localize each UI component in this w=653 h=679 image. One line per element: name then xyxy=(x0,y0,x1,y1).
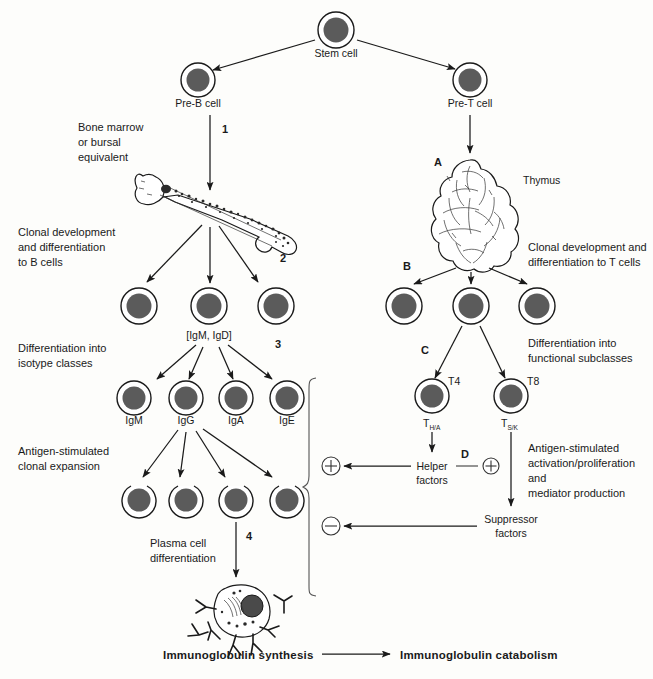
lymphocyte-development-diagram: Stem cell Pre-B cell Pre-T cell Bone mar… xyxy=(0,0,653,679)
clonal-b-line-3: to B cells xyxy=(18,256,63,268)
diagram-canvas: Stem cell Pre-B cell Pre-T cell Bone mar… xyxy=(0,0,653,679)
t-cell-left-nucleus xyxy=(392,294,417,319)
t-cell-right-nucleus xyxy=(525,294,550,319)
stem-cell-label: Stem cell xyxy=(314,47,357,59)
b-cell-right-nucleus xyxy=(264,294,289,319)
expanded-clone-3 xyxy=(219,486,253,518)
expanded-clone-2 xyxy=(169,486,203,518)
clone-4-nucleus xyxy=(276,489,299,512)
clonal-expansion-line-1: Antigen-stimulated xyxy=(18,445,109,457)
antigen-t-line-4: mediator production xyxy=(528,487,625,499)
marker-4: 4 xyxy=(246,530,253,542)
clone-1-nucleus xyxy=(128,489,151,512)
t8-cell-label: T8 xyxy=(527,375,539,387)
isotype-line-1: Differentiation into xyxy=(18,342,106,354)
clonal-expansion-line-2: clonal expansion xyxy=(18,460,100,472)
pre-t-cell-nucleus xyxy=(459,69,482,92)
functional-subclasses-line-2: functional subclasses xyxy=(528,352,633,364)
isotype-line-2: isotype classes xyxy=(18,357,93,369)
marker-d: D xyxy=(461,448,469,460)
thymus-label: Thymus xyxy=(523,174,560,186)
functional-subclasses-line-1: Differentiation into xyxy=(528,337,616,349)
t8-cell-nucleus xyxy=(500,385,523,408)
clone-2-nucleus xyxy=(175,489,198,512)
marker-c: C xyxy=(421,344,429,356)
bone-marrow-line-1: Bone marrow xyxy=(78,121,143,133)
expanded-clone-1 xyxy=(122,486,156,518)
b-cell-clone-center xyxy=(191,288,227,324)
b-cell-clone-right xyxy=(258,288,294,324)
marker-b: B xyxy=(403,260,411,272)
b-cell-left-nucleus xyxy=(127,294,152,319)
stem-cell-node: Stem cell xyxy=(314,12,357,59)
pre-b-cell-nucleus xyxy=(187,69,210,92)
expanded-clone-4 xyxy=(270,486,304,518)
helper-factors-line-2: factors xyxy=(416,474,448,486)
minus-sign-left xyxy=(322,517,340,535)
b-cell-center-nucleus xyxy=(197,294,222,319)
pre-b-cell-label: Pre-B cell xyxy=(175,97,221,109)
t-cell-clone-right xyxy=(519,288,555,324)
antigen-t-line-3: and xyxy=(528,472,546,484)
clonal-t-line-1: Clonal development and xyxy=(528,241,647,253)
t4-cell-label: T4 xyxy=(448,375,460,387)
b-cell-clone-left xyxy=(121,288,157,324)
clonal-b-line-2: and differentiation xyxy=(18,241,105,253)
plasma-cell-line-2: differentiation xyxy=(150,552,216,564)
t-cell-clone-center xyxy=(453,288,489,324)
suppressor-factors-line-2: factors xyxy=(495,527,527,539)
marker-3: 3 xyxy=(275,338,281,350)
t-cell-center-nucleus xyxy=(459,294,484,319)
immunoglobulin-catabolism-label: Immunoglobulin catabolism xyxy=(400,649,558,661)
igg-cell-label: IgG xyxy=(178,414,195,426)
stem-cell-nucleus xyxy=(324,18,349,43)
t-cell-clone-left xyxy=(386,288,422,324)
immunoglobulin-synthesis-label: Immunoglobulin synthesis xyxy=(163,649,313,661)
ige-cell-nucleus xyxy=(276,387,299,410)
clonal-t-line-2: differentiation to T cells xyxy=(528,256,641,268)
igm-igd-label: [IgM, IgD] xyxy=(186,329,232,341)
clonal-b-line-1: Clonal development xyxy=(18,226,115,238)
clone-3-nucleus xyxy=(225,489,248,512)
plus-sign-left xyxy=(322,457,340,475)
antigen-t-line-2: activation/proliferation xyxy=(528,457,635,469)
igg-cell-nucleus xyxy=(175,387,198,410)
igm-cell-nucleus xyxy=(123,387,146,410)
bone-marrow-line-2: or bursal xyxy=(78,136,121,148)
t4-cell-nucleus xyxy=(421,385,444,408)
plus-sign-right xyxy=(483,458,499,474)
suppressor-factors-line-1: Suppressor xyxy=(484,513,538,525)
igm-cell-label: IgM xyxy=(125,414,143,426)
marker-1: 1 xyxy=(222,123,228,135)
bone-marrow-line-3: equivalent xyxy=(78,151,128,163)
marker-2: 2 xyxy=(280,252,286,264)
plasma-cell-line-1: Plasma cell xyxy=(150,537,206,549)
pre-t-cell-label: Pre-T cell xyxy=(448,97,493,109)
iga-cell-label: IgA xyxy=(228,414,244,426)
ige-cell-label: IgE xyxy=(279,414,295,426)
iga-cell-nucleus xyxy=(225,387,248,410)
helper-factors-line-1: Helper xyxy=(417,460,448,472)
antigen-t-line-1: Antigen-stimulated xyxy=(528,442,619,454)
marker-a: A xyxy=(434,156,442,168)
